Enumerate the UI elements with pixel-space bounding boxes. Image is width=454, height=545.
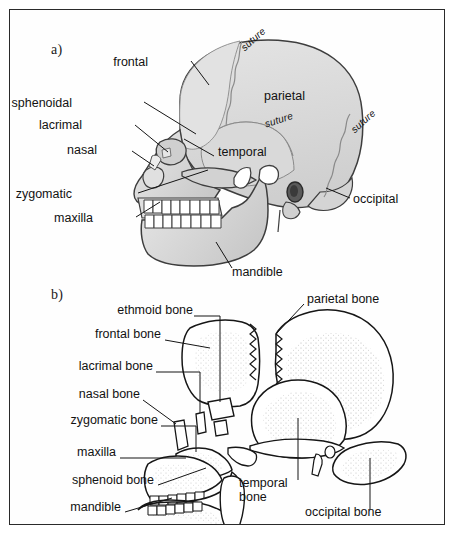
nasal-aperture-shape — [143, 167, 164, 188]
label-occipital: occipital — [353, 193, 398, 206]
label-temporal-bone: temporal bone — [239, 476, 301, 504]
label-ethmoid-bone: ethmoid bone — [105, 304, 193, 317]
nasal-bone-shape-b — [174, 420, 188, 450]
label-nasal-bone: nasal bone — [52, 388, 140, 401]
label-mandible-b: mandible — [48, 501, 121, 514]
label-nasal: nasal — [35, 144, 97, 157]
mandibular-condyle-shape — [259, 166, 278, 185]
styloid-process-shape — [278, 210, 280, 232]
label-maxilla: maxilla — [31, 212, 93, 225]
lacrimal-bone-shape — [162, 148, 171, 158]
label-zygomatic: zygomatic — [10, 188, 72, 201]
leader-lacrimal — [135, 125, 168, 152]
panel-a: a) frontal sphenoidal lacrimal nasal zyg… — [10, 10, 444, 272]
label-lacrimal: lacrimal — [20, 119, 82, 132]
label-zygomatic-bone: zygomatic bone — [48, 414, 158, 427]
ethmoid-bone-shape-b — [214, 420, 228, 436]
frontal-bone-stipple — [195, 332, 249, 392]
label-frontal: frontal — [90, 56, 148, 69]
label-occipital-bone: occipital bone — [305, 506, 381, 519]
figure-frame: a) frontal sphenoidal lacrimal nasal zyg… — [9, 9, 445, 525]
figure-root: a) frontal sphenoidal lacrimal nasal zyg… — [0, 0, 454, 545]
panel-a-illustration — [10, 10, 444, 272]
label-lacrimal-bone: lacrimal bone — [55, 360, 153, 373]
panel-a-marker: a) — [51, 42, 62, 58]
label-temporal: temporal — [218, 146, 267, 159]
sphenoid-bone-shape-b — [208, 398, 234, 420]
label-sphenoidal: sphenoidal — [10, 97, 72, 110]
lacrimal-bone-shape-b — [196, 412, 206, 434]
upper-teeth-group — [144, 200, 219, 214]
label-temporal-bone-line2: bone — [239, 490, 267, 504]
label-parietal-bone: parietal bone — [307, 293, 379, 306]
leader-nasal — [132, 151, 154, 166]
label-sphenoid-bone: sphenoid bone — [48, 474, 154, 487]
label-parietal: parietal — [264, 90, 305, 103]
panel-b-marker: b) — [51, 287, 63, 303]
label-maxilla-b: maxilla — [48, 446, 116, 459]
auditory-meatus-inner — [290, 185, 298, 197]
label-frontal-bone: frontal bone — [73, 328, 161, 341]
temporal-meatus-shape — [325, 446, 335, 458]
panel-b: b) ethmoid bone parietal bone frontal bo… — [10, 272, 444, 524]
lower-teeth-group — [145, 215, 221, 228]
label-temporal-bone-line1: temporal — [239, 476, 288, 490]
